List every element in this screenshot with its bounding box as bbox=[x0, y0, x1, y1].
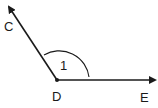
angle-diagram: C D E 1 bbox=[0, 0, 158, 108]
label-c: C bbox=[4, 19, 13, 34]
label-e: E bbox=[140, 90, 149, 105]
label-d: D bbox=[52, 89, 61, 104]
vertex-point bbox=[55, 78, 59, 82]
angle-label: 1 bbox=[60, 58, 67, 73]
ray-dc bbox=[9, 7, 57, 80]
